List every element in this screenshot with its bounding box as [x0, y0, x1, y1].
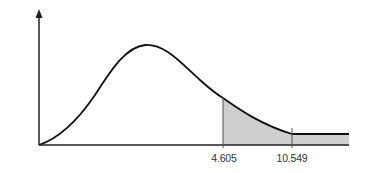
test-statistic-label: 10.549 [277, 152, 308, 164]
chi-square-chart [0, 0, 371, 173]
y-axis-arrow-icon [36, 9, 43, 18]
density-curve [39, 45, 349, 145]
critical-value-label: 4.605 [211, 152, 236, 164]
shaded-tail-area [223, 98, 349, 145]
